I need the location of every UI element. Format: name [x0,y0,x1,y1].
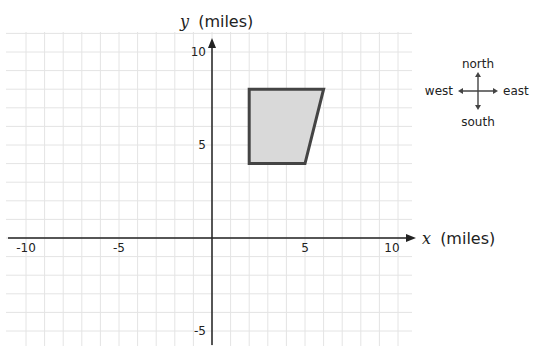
x-tick-label: -5 [113,241,125,255]
y-tick-label: 5 [198,138,206,152]
trapezoid-region [249,89,323,163]
y-tick-label: -5 [194,324,206,338]
y-axis-arrow-icon [208,38,216,48]
west-arrow-icon [458,88,463,94]
north-arrow-icon [475,72,481,77]
east-arrow-icon [493,88,498,94]
grid-lines [6,32,412,346]
axes [8,38,416,345]
compass-south-label: south [461,115,495,129]
y-tick-label: 10 [191,45,206,59]
south-arrow-icon [475,105,481,110]
x-axis-title: x (miles) [422,229,495,248]
compass-east-label: east [503,84,529,98]
y-axis-title: y (miles) [179,12,253,31]
x-tick-label: 10 [384,241,399,255]
coordinate-plane: -10-5510105-5 x (miles) y (miles) north … [0,0,536,352]
x-tick-label: -10 [16,241,36,255]
x-tick-label: 5 [301,241,309,255]
compass-west-label: west [425,84,453,98]
compass-rose: north south west east [425,57,529,129]
x-axis-arrow-icon [406,234,416,242]
compass-north-label: north [462,57,494,71]
